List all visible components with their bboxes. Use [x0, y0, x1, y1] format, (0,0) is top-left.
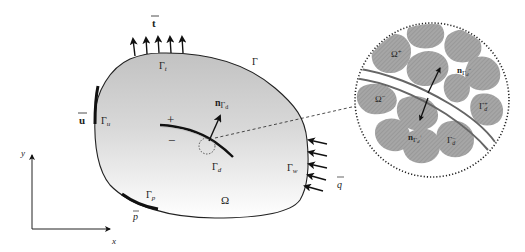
domain-label: Ω [221, 194, 229, 206]
plus-side-label: + [167, 112, 174, 127]
gamma-minus-label: Γd− [447, 135, 456, 146]
minus-side-label: − [168, 133, 175, 148]
displacement-label: u [79, 114, 85, 126]
axis-y-label: y [20, 148, 25, 158]
diagram-canvas: t Γ Γt u Γu + − nΓd Γd Ω Γp p Γw q x y [0, 0, 525, 252]
pressure-label: p [132, 211, 138, 222]
boundary-label: Γ [252, 56, 258, 67]
flux-label: q [337, 179, 342, 190]
traction-label: t [152, 17, 156, 29]
axis-x-label: x [111, 236, 116, 246]
detail-view: Ω+ Ω− nΓd− nΓd+ Γd+ Γd− [355, 21, 509, 177]
coordinate-axes [32, 155, 110, 229]
gamma-plus-label: Γd+ [479, 101, 488, 112]
